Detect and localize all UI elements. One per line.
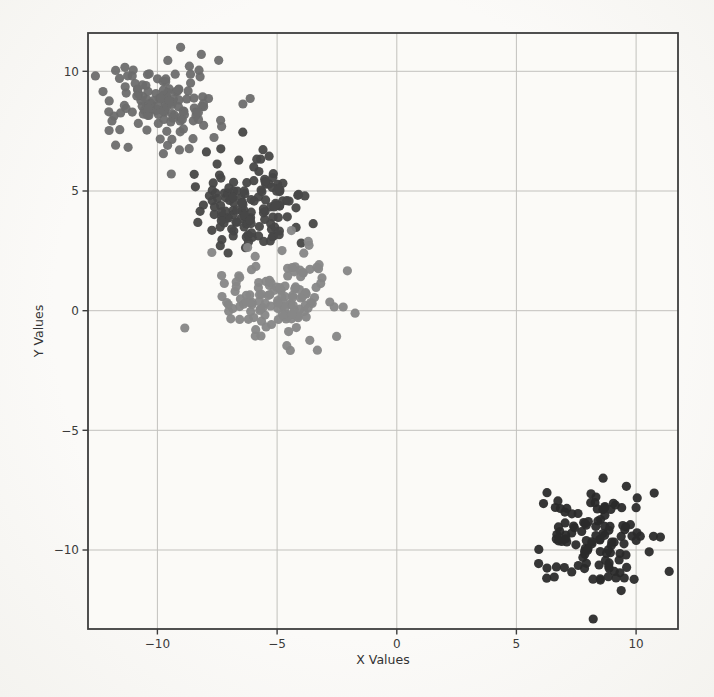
data-point-cluster-lower-middle [287, 226, 296, 235]
data-point-cluster-top-left [144, 104, 153, 113]
data-point-cluster-bottom-right [649, 532, 658, 541]
data-point-cluster-lower-middle [267, 320, 276, 329]
data-point-cluster-middle [224, 248, 233, 257]
data-point-cluster-lower-middle [291, 282, 300, 291]
data-point-cluster-top-left [91, 71, 100, 80]
data-point-cluster-top-left [122, 89, 131, 98]
data-point-cluster-top-left [132, 91, 141, 100]
data-point-cluster-bottom-right [665, 567, 674, 576]
data-point-cluster-lower-middle [217, 271, 226, 280]
data-point-cluster-lower-middle [304, 237, 313, 246]
data-point-cluster-top-left [175, 145, 184, 154]
data-point-cluster-lower-middle [224, 300, 233, 309]
data-point-cluster-middle [242, 178, 251, 187]
data-point-cluster-middle [224, 183, 233, 192]
data-point-cluster-lower-middle [265, 290, 274, 299]
data-point-cluster-lower-middle [286, 346, 295, 355]
data-point-cluster-middle [294, 190, 303, 199]
data-point-cluster-bottom-right [534, 559, 543, 568]
data-point-cluster-lower-middle [339, 302, 348, 311]
data-point-cluster-top-left [105, 126, 114, 135]
y-tick-label: 0 [71, 304, 79, 318]
data-point-cluster-top-left [217, 122, 226, 131]
data-point-cluster-bottom-right [620, 525, 629, 534]
data-point-cluster-top-left [120, 63, 129, 72]
data-point-cluster-bottom-right [570, 523, 579, 532]
data-point-cluster-lower-middle [180, 323, 189, 332]
data-point-cluster-bottom-right [542, 564, 551, 573]
data-point-cluster-middle [207, 226, 216, 235]
y-tick-label: −10 [54, 543, 79, 557]
data-point-cluster-lower-middle [257, 317, 266, 326]
data-point-cluster-middle [271, 201, 280, 210]
data-point-cluster-bottom-right [551, 503, 560, 512]
data-point-cluster-top-left [163, 56, 172, 65]
data-point-cluster-lower-middle [292, 323, 301, 332]
data-point-cluster-lower-middle [251, 252, 260, 261]
x-tick-label: 5 [513, 637, 521, 651]
data-point-cluster-middle [232, 218, 241, 227]
data-point-cluster-bottom-right [607, 541, 616, 550]
data-point-cluster-top-left [111, 141, 120, 150]
data-point-cluster-lower-middle [275, 283, 284, 292]
data-point-cluster-lower-middle [315, 260, 324, 269]
data-point-cluster-top-left [143, 70, 152, 79]
data-point-cluster-middle [215, 170, 224, 179]
data-point-cluster-lower-middle [207, 248, 216, 257]
data-point-cluster-top-left [176, 127, 185, 136]
data-point-cluster-bottom-right [632, 503, 641, 512]
data-point-cluster-top-left [124, 143, 133, 152]
data-point-cluster-lower-middle [343, 266, 352, 275]
data-point-cluster-lower-middle [220, 279, 229, 288]
data-point-cluster-middle [266, 219, 275, 228]
data-point-cluster-middle [247, 228, 256, 237]
data-point-cluster-lower-middle [317, 273, 326, 282]
data-point-cluster-top-left [185, 144, 194, 153]
data-point-cluster-bottom-right [571, 540, 580, 549]
data-point-cluster-bottom-right [562, 537, 571, 546]
data-point-cluster-top-left [134, 119, 143, 128]
data-point-cluster-top-left [189, 94, 198, 103]
data-point-cluster-middle [193, 218, 202, 227]
data-point-cluster-lower-middle [332, 332, 341, 341]
data-point-cluster-top-left [122, 104, 131, 113]
data-point-cluster-top-left [194, 66, 203, 75]
data-point-cluster-middle [291, 203, 300, 212]
data-point-cluster-middle [309, 219, 318, 228]
data-point-cluster-middle [216, 241, 225, 250]
data-point-cluster-top-left [159, 86, 168, 95]
data-point-cluster-bottom-right [550, 572, 559, 581]
data-point-cluster-middle [232, 205, 241, 214]
data-point-cluster-top-left [194, 108, 203, 117]
data-point-cluster-lower-middle [303, 304, 312, 313]
data-point-cluster-lower-middle [330, 302, 339, 311]
data-point-cluster-top-left [184, 86, 193, 95]
data-point-cluster-lower-middle [277, 246, 286, 255]
data-point-cluster-lower-middle [251, 325, 260, 334]
data-point-cluster-top-left [197, 50, 206, 59]
data-point-cluster-middle [283, 212, 292, 221]
data-point-cluster-bottom-right [596, 574, 605, 583]
data-point-cluster-bottom-right [587, 537, 596, 546]
data-point-cluster-lower-middle [226, 314, 235, 323]
data-point-cluster-middle [261, 177, 270, 186]
data-point-cluster-top-left [186, 70, 195, 79]
data-point-cluster-middle [234, 156, 243, 165]
data-point-cluster-bottom-right [599, 474, 608, 483]
data-point-cluster-bottom-right [621, 550, 630, 559]
data-point-cluster-top-left [209, 133, 218, 142]
data-point-cluster-middle [258, 145, 267, 154]
data-point-cluster-top-left [166, 117, 175, 126]
data-point-cluster-lower-middle [288, 263, 297, 272]
data-point-cluster-top-left [115, 125, 124, 134]
data-point-cluster-lower-middle [302, 313, 311, 322]
data-point-cluster-bottom-right [534, 545, 543, 554]
data-point-cluster-top-left [139, 24, 148, 33]
data-point-cluster-top-left [159, 149, 168, 158]
y-tick-label: −5 [61, 424, 79, 438]
data-point-cluster-top-left [142, 126, 151, 135]
data-point-cluster-bottom-right [619, 539, 628, 548]
data-point-cluster-middle [211, 189, 220, 198]
data-point-cluster-middle [259, 204, 268, 213]
data-point-cluster-middle [240, 186, 249, 195]
